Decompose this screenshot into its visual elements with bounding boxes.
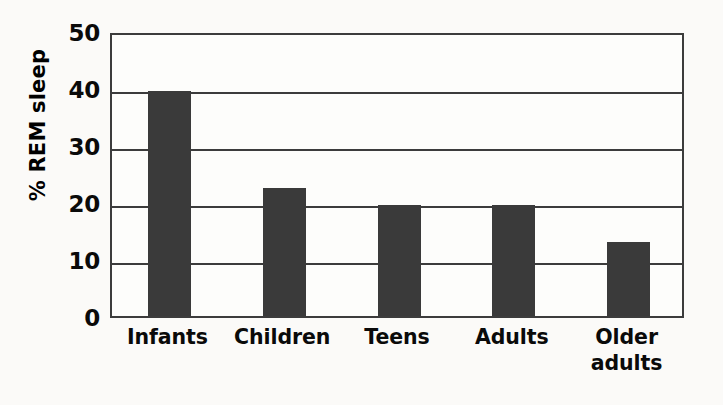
plot-area [110,33,684,318]
x-tick-label-line: Older [569,324,684,350]
x-tick-label: Infants [110,324,225,350]
y-axis-tick-labels: 01020304050 [48,33,100,318]
bar [492,205,535,316]
x-tick-label: Teens [340,324,455,350]
x-tick-label-line: Teens [340,324,455,350]
y-tick-label: 20 [48,191,100,217]
x-tick-label: Adults [454,324,569,350]
bar [263,188,306,316]
bar [607,242,650,316]
x-tick-label-line: Children [225,324,340,350]
rem-sleep-bar-chart: % REM sleep 01020304050 InfantsChildrenT… [0,0,723,405]
bars-layer [112,35,682,316]
x-tick-label-line: Infants [110,324,225,350]
bar [378,205,421,316]
y-tick-label: 0 [48,305,100,331]
x-tick-label-line: Adults [454,324,569,350]
y-tick-label: 10 [48,248,100,274]
y-tick-label: 30 [48,134,100,160]
y-tick-label: 40 [48,77,100,103]
x-tick-label: Olderadults [569,324,684,376]
x-axis-tick-labels: InfantsChildrenTeensAdultsOlderadults [110,324,684,402]
y-tick-label: 50 [48,20,100,46]
x-tick-label: Children [225,324,340,350]
bar [148,91,191,316]
x-tick-label-line: adults [569,350,684,376]
